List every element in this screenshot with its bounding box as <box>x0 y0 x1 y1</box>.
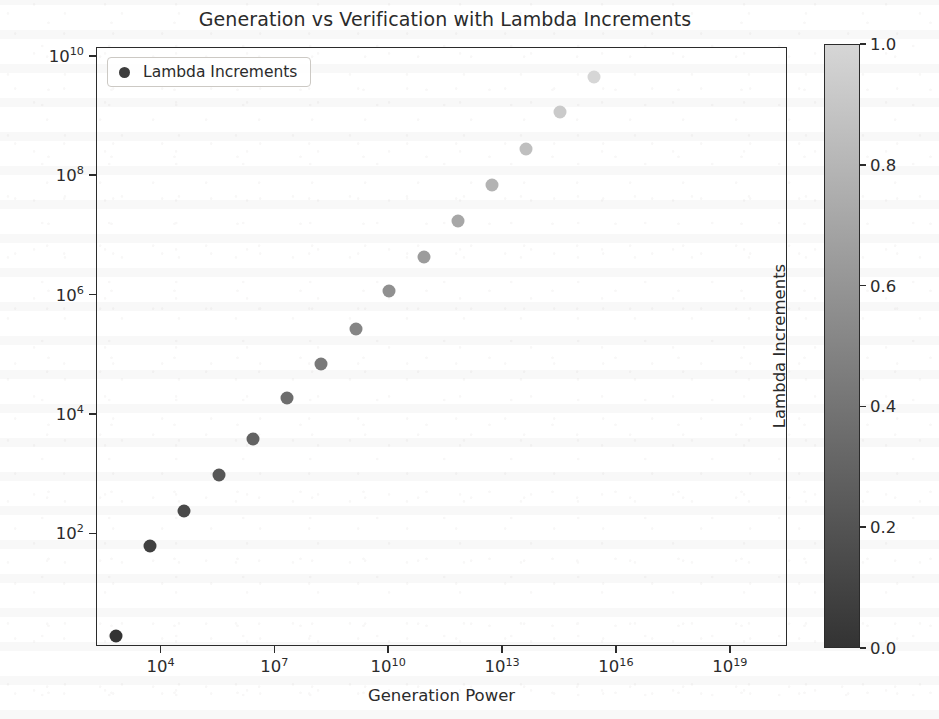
colorbar-tick-label: 0.6 <box>870 276 896 295</box>
scatter-point <box>451 214 464 227</box>
scatter-point <box>554 105 567 118</box>
y-axis-tick-mark <box>89 294 96 296</box>
x-axis-tick-label: 104 <box>125 657 195 676</box>
x-axis-tick-label: 1016 <box>581 657 651 676</box>
x-axis-tick-label: 107 <box>239 657 309 676</box>
x-axis-tick-label: 1019 <box>695 657 765 676</box>
colorbar-gradient <box>824 44 860 648</box>
scatter-point <box>144 540 157 553</box>
scatter-point <box>178 504 191 517</box>
plot-axes-frame <box>96 47 787 646</box>
scatter-point <box>383 284 396 297</box>
y-axis-tick-mark <box>89 55 96 57</box>
y-axis-tick-mark <box>89 174 96 176</box>
colorbar-title-wrapper: Lambda Increments <box>908 196 930 496</box>
scatter-point <box>280 392 293 405</box>
colorbar-tick-label: 0.8 <box>870 155 896 174</box>
colorbar-tick-label: 0.0 <box>870 639 896 658</box>
y-axis-tick-mark <box>89 533 96 535</box>
x-axis-tick-mark <box>729 646 731 653</box>
chart-legend[interactable]: Lambda Increments <box>107 57 311 87</box>
legend-marker-icon <box>119 67 130 78</box>
y-axis-tick-label: 1010 <box>32 46 84 65</box>
plot-data-area <box>97 48 786 645</box>
colorbar[interactable] <box>824 44 860 648</box>
colorbar-title: Lambda Increments <box>769 196 791 496</box>
chart-figure: Generation vs Verification with Lambda I… <box>0 0 939 719</box>
scatter-point <box>212 468 225 481</box>
colorbar-tick-label: 0.2 <box>870 518 896 537</box>
y-axis-tick-label: 108 <box>32 166 84 185</box>
colorbar-tick-mark <box>860 43 866 45</box>
scatter-point <box>417 250 430 263</box>
x-axis-tick-label: 1013 <box>467 657 537 676</box>
colorbar-tick-label: 0.4 <box>870 397 896 416</box>
x-axis-tick-mark <box>160 646 162 653</box>
colorbar-tick-mark <box>860 285 866 287</box>
y-axis-title-wrapper: Verification Power <box>18 196 40 496</box>
colorbar-tick-mark <box>860 526 866 528</box>
colorbar-tick-label: 1.0 <box>870 35 896 54</box>
x-axis-tick-mark <box>274 646 276 653</box>
scatter-point <box>485 179 498 192</box>
colorbar-tick-mark <box>860 164 866 166</box>
chart-title: Generation vs Verification with Lambda I… <box>0 8 890 30</box>
x-axis-tick-mark <box>615 646 617 653</box>
colorbar-tick-mark <box>860 406 866 408</box>
scatter-point <box>315 358 328 371</box>
scatter-point <box>109 629 122 642</box>
legend-item-label: Lambda Increments <box>143 63 297 81</box>
scatter-point <box>246 432 259 445</box>
scatter-point <box>519 143 532 156</box>
y-axis-tick-mark <box>89 413 96 415</box>
colorbar-tick-mark <box>860 647 866 649</box>
x-axis-tick-mark <box>501 646 503 653</box>
scatter-point <box>349 322 362 335</box>
x-axis-tick-label: 1010 <box>353 657 423 676</box>
x-axis-title: Generation Power <box>96 686 787 705</box>
scatter-point <box>588 71 601 84</box>
x-axis-tick-mark <box>387 646 389 653</box>
y-axis-tick-label: 102 <box>32 524 84 543</box>
